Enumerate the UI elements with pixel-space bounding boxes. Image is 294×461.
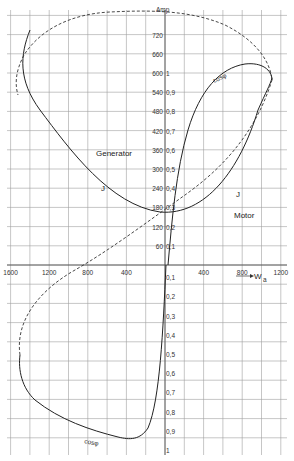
y-tick-cosphi-lower-label: 0,7 xyxy=(166,389,175,396)
y-tick-cosphi-label: 0,1 xyxy=(166,243,175,250)
x-tick-label: 1200 xyxy=(42,269,57,276)
y-tick-amp-label: 420 xyxy=(152,128,163,135)
y-tick-amp-label: 300 xyxy=(152,166,163,173)
y-tick-cosphi-lower-label: 0,6 xyxy=(166,370,175,377)
y-tick-amp-label: 60 xyxy=(156,243,164,250)
grid xyxy=(7,10,287,455)
x-tick-label: 1600 xyxy=(3,269,18,276)
y-tick-amp-label: 600 xyxy=(152,70,163,77)
current-label-left: J xyxy=(101,184,105,193)
generator-label: Generator xyxy=(96,149,132,158)
y-tick-cosphi-lower-label: 0,5 xyxy=(166,351,175,358)
y-tick-cosphi-label: 1 xyxy=(166,70,170,77)
y-tick-cosphi-lower-label: 1 xyxy=(166,447,170,454)
y-tick-amp-label: 480 xyxy=(152,108,163,115)
y-tick-cosphi-label: 0,8 xyxy=(166,108,175,115)
y-tick-cosphi-label: 0,6 xyxy=(166,147,175,154)
y-tick-cosphi-lower-label: 0,1 xyxy=(166,274,175,281)
y-tick-amp-label: 180 xyxy=(152,204,163,211)
y-tick-cosphi-label: 0,2 xyxy=(166,224,175,231)
x-tick-label: 1200 xyxy=(274,269,289,276)
x-tick-label: 800 xyxy=(82,269,93,276)
y-tick-amp-label: 720 xyxy=(152,32,163,39)
y-tick-cosphi-label: 0,7 xyxy=(166,128,175,135)
cosphi-upper-curve xyxy=(168,64,272,265)
y-tick-amp-label: 360 xyxy=(152,147,163,154)
y-tick-cosphi-label: 0,4 xyxy=(166,185,175,192)
motor-label: Motor xyxy=(234,211,255,220)
y-tick-cosphi-lower-label: 0,2 xyxy=(166,293,175,300)
y-tick-cosphi-lower-label: 0,3 xyxy=(166,313,175,320)
y-tick-amp-label: 660 xyxy=(152,51,163,58)
cosphi-label-bottom: cosφ xyxy=(84,437,100,448)
x-tick-label: 400 xyxy=(121,269,132,276)
current-label-right: J xyxy=(236,190,240,199)
y-tick-amp-label: 240 xyxy=(152,185,163,192)
x-tick-label: 400 xyxy=(198,269,209,276)
cosphi-lower-curve xyxy=(20,265,166,439)
y-tick-amp-label: 120 xyxy=(152,224,163,231)
y-tick-cosphi-lower-label: 0,8 xyxy=(166,409,175,416)
cosphi-label-top: cosφ xyxy=(211,72,227,85)
y-tick-cosphi-lower-label: 0,9 xyxy=(166,428,175,435)
y-tick-cosphi-label: 0,5 xyxy=(166,166,175,173)
x-tick-label: 800 xyxy=(237,269,248,276)
chart: 3200280024002000160012008004004008001200… xyxy=(0,0,294,461)
wa-subscript: a xyxy=(263,276,267,283)
wa-label: W xyxy=(254,272,262,281)
y-tick-cosphi-label: 0,9 xyxy=(166,89,175,96)
y-tick-amp-label: 540 xyxy=(152,89,163,96)
y-tick-cosphi-lower-label: 0,4 xyxy=(166,332,175,339)
y-axis-label-amp: Amp xyxy=(156,6,170,14)
tick-labels: 3200280024002000160012008004004008001200… xyxy=(0,32,294,454)
current-curve-J xyxy=(23,30,272,212)
